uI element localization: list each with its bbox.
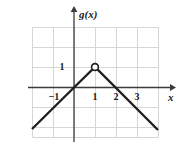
graph-figure: g(x) x 1 −1 1 2 3 xyxy=(0,0,188,151)
x-tick-label-1: 1 xyxy=(93,91,98,102)
y-tick-label-1: 1 xyxy=(60,61,65,72)
x-tick-label-3: 3 xyxy=(135,91,140,102)
x-axis-label: x xyxy=(167,91,174,103)
coordinate-plane-svg: g(x) x 1 −1 1 2 3 xyxy=(0,0,188,151)
open-circle-hole-icon xyxy=(92,64,99,71)
y-axis-label: g(x) xyxy=(78,8,97,21)
x-tick-label-2: 2 xyxy=(114,91,119,102)
figure-background xyxy=(0,0,188,151)
x-tick-label-neg-1: −1 xyxy=(49,91,60,102)
